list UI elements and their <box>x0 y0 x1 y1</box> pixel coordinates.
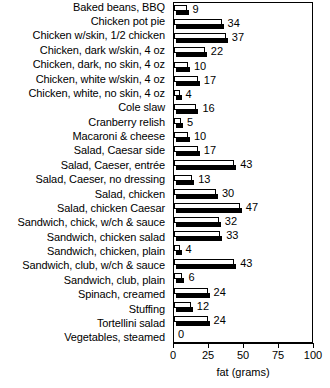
bar-face <box>174 33 226 39</box>
bar-value-label: 17 <box>204 75 216 86</box>
bar-value-label: 10 <box>194 131 206 142</box>
bar-face <box>174 104 196 110</box>
bar-row: 17 <box>174 74 313 88</box>
bar-row: 4 <box>174 88 313 102</box>
bar-value-label: 22 <box>211 46 223 57</box>
category-label: Salad, Caeser, entrée <box>0 158 169 172</box>
bar-value-label: 43 <box>240 159 252 170</box>
category-label: Chicken pot pie <box>0 14 169 28</box>
category-label: Baked beans, BBQ <box>0 0 169 14</box>
bar-row: 4 <box>174 243 313 257</box>
bar-face <box>174 245 180 251</box>
bar-row: 24 <box>174 286 313 300</box>
bar-value-label: 17 <box>204 145 216 156</box>
bar-row: 10 <box>174 130 313 144</box>
bar-face <box>174 146 198 152</box>
x-tick-mark <box>208 343 209 348</box>
bar-face <box>174 288 208 294</box>
bar-row: 5 <box>174 116 313 130</box>
bar-face <box>174 5 187 11</box>
bar-face <box>174 273 182 279</box>
bar-value-label: 43 <box>240 258 252 269</box>
category-label: Sandwich, chicken salad <box>0 230 169 244</box>
category-label: Sandwich, chicken, plain <box>0 244 169 258</box>
bar-value-label: 16 <box>202 103 214 114</box>
x-tick-label: 50 <box>237 350 249 361</box>
bar-face <box>174 259 234 265</box>
bar-face <box>174 47 205 53</box>
bar-row: 13 <box>174 173 313 187</box>
bar-row: 9 <box>174 3 313 17</box>
bar-row: 17 <box>174 144 313 158</box>
category-label: Sandwich, chick, w/ch & sauce <box>0 216 169 230</box>
bar-value-label: 32 <box>225 216 237 227</box>
bar-value-label: 33 <box>226 230 238 241</box>
bar-row: 32 <box>174 215 313 229</box>
category-label: Sandwich, club, plain <box>0 273 169 287</box>
bar-row: 47 <box>174 201 313 215</box>
bar-row: 43 <box>174 158 313 172</box>
bar-face <box>174 302 191 308</box>
bar-face <box>174 203 240 209</box>
x-axis-title: fat (grams) <box>173 367 313 378</box>
bar-face <box>174 316 208 322</box>
category-label: Chicken, white, no skin, 4 oz <box>0 86 169 100</box>
bar-value-label: 6 <box>188 272 194 283</box>
category-axis-labels: Baked beans, BBQChicken pot pieChicken w… <box>0 0 169 345</box>
bar-value-label: 34 <box>228 18 240 29</box>
bar-face <box>174 62 188 68</box>
x-tick-mark <box>313 343 314 348</box>
bar-value-label: 47 <box>246 202 258 213</box>
x-tick-label: 100 <box>304 350 322 361</box>
bar-face <box>174 90 180 96</box>
bar-row: 16 <box>174 102 313 116</box>
bar-value-label: 9 <box>193 4 199 15</box>
bar-row: 30 <box>174 187 313 201</box>
category-label: Salad, Caeser, no dressing <box>0 173 169 187</box>
category-label: Vegetables, steamed <box>0 331 169 345</box>
bar-value-label: 12 <box>197 301 209 312</box>
bar-value-label: 0 <box>178 329 184 340</box>
bar-value-label: 24 <box>214 287 226 298</box>
bar-row: 22 <box>174 45 313 59</box>
bar-face <box>174 217 219 223</box>
bar-value-label: 5 <box>187 117 193 128</box>
category-label: Stuffing <box>0 302 169 316</box>
category-label: Cole slaw <box>0 101 169 115</box>
bar-row: 0 <box>174 328 313 342</box>
bar-value-label: 4 <box>186 89 192 100</box>
category-label: Chicken, dark w/skin, 4 oz <box>0 43 169 57</box>
bars-container: 9343722101741651017431330473233443624122… <box>174 3 313 342</box>
bar-face <box>174 189 216 195</box>
category-label: Spinach, creamed <box>0 288 169 302</box>
x-tick-mark <box>173 343 174 348</box>
bar-face <box>174 132 188 138</box>
bar-face <box>174 19 222 25</box>
category-label: Salad, chicken Caesar <box>0 201 169 215</box>
bar-value-label: 30 <box>222 188 234 199</box>
x-tick-label: 25 <box>202 350 214 361</box>
bar-face <box>174 76 198 82</box>
bar-row: 34 <box>174 17 313 31</box>
bar-row: 33 <box>174 229 313 243</box>
bar-row: 24 <box>174 314 313 328</box>
bar-value-label: 37 <box>232 32 244 43</box>
category-label: Cranberry relish <box>0 115 169 129</box>
bar-face <box>174 118 181 124</box>
category-label: Chicken, dark, no skin, 4 oz <box>0 58 169 72</box>
bar-value-label: 4 <box>186 244 192 255</box>
bar-row: 10 <box>174 60 313 74</box>
category-label: Salad, chicken <box>0 187 169 201</box>
bar-value-label: 10 <box>194 61 206 72</box>
x-tick-label: 75 <box>272 350 284 361</box>
bar-face <box>174 160 234 166</box>
category-label: Chicken w/skin, 1/2 chicken <box>0 29 169 43</box>
bar-value-label: 24 <box>214 315 226 326</box>
bar-chart: Baked beans, BBQChicken pot pieChicken w… <box>0 0 330 388</box>
category-label: Macaroni & cheese <box>0 129 169 143</box>
x-tick-mark <box>278 343 279 348</box>
bar-face <box>174 175 192 181</box>
bar-value-label: 13 <box>198 174 210 185</box>
bar-row: 43 <box>174 257 313 271</box>
category-label: Salad, Caesar side <box>0 144 169 158</box>
